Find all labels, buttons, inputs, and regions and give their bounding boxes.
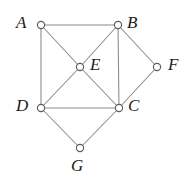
vertex-label-d: D — [16, 97, 28, 114]
vertex-label-e: E — [90, 56, 100, 73]
graph-vertex-c — [115, 104, 122, 111]
graph-vertex-f — [153, 63, 160, 70]
graph-vertex-b — [114, 21, 121, 28]
graph-figure: ABCDEFG — [0, 0, 195, 183]
vertex-label-b: B — [127, 14, 137, 31]
edges-layer — [41, 25, 157, 148]
graph-edge-bc — [118, 25, 119, 108]
graph-edge-bf — [118, 25, 157, 67]
graph-edge-ae — [41, 25, 80, 67]
graph-vertex-e — [76, 63, 83, 70]
graph-edge-ed — [41, 67, 80, 108]
graph-canvas — [0, 0, 195, 183]
graph-edge-dg — [41, 108, 80, 148]
graph-edge-gc — [80, 108, 119, 148]
vertex-label-c: C — [128, 97, 139, 114]
graph-vertex-d — [37, 104, 44, 111]
vertex-label-g: G — [71, 157, 83, 174]
vertex-label-a: A — [16, 14, 26, 31]
graph-vertex-a — [37, 21, 44, 28]
vertex-label-f: F — [168, 56, 178, 73]
graph-vertex-g — [76, 144, 83, 151]
